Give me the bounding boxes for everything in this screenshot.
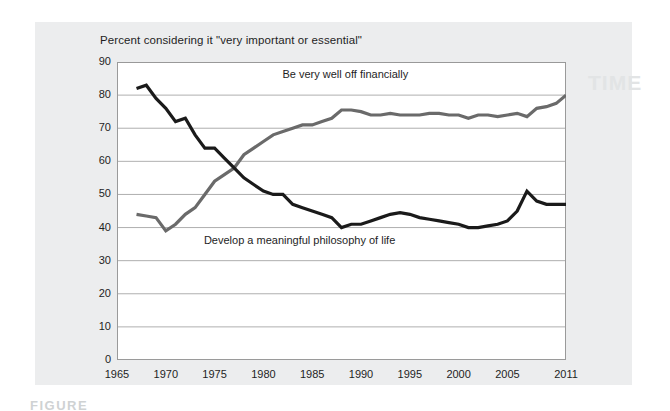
x-tick-label: 1980 bbox=[241, 368, 285, 380]
figure-caption: FIGURE bbox=[30, 398, 88, 411]
y-tick-label: 60 bbox=[85, 154, 111, 166]
y-tick-label: 70 bbox=[85, 121, 111, 133]
x-tick-label: 1990 bbox=[339, 368, 383, 380]
series-label-financial: Be very well off financially bbox=[282, 68, 408, 80]
y-tick-label: 50 bbox=[85, 187, 111, 199]
line-chart-plot bbox=[117, 62, 566, 360]
chart-title: Percent considering it "very important o… bbox=[100, 34, 362, 46]
y-tick-label: 40 bbox=[85, 221, 111, 233]
y-tick-label: 80 bbox=[85, 88, 111, 100]
x-tick-label: 1965 bbox=[95, 368, 139, 380]
series-line-philosophy bbox=[137, 85, 566, 227]
series-label-philosophy: Develop a meaningful philosophy of life bbox=[204, 234, 395, 246]
x-tick-label: 1970 bbox=[144, 368, 188, 380]
x-tick-label: 2000 bbox=[437, 368, 481, 380]
y-tick-label: 90 bbox=[85, 55, 111, 67]
x-tick-label: 1995 bbox=[388, 368, 432, 380]
y-tick-label: 20 bbox=[85, 287, 111, 299]
y-tick-label: 10 bbox=[85, 320, 111, 332]
y-tick-label: 30 bbox=[85, 254, 111, 266]
series-line-financial bbox=[137, 95, 566, 231]
x-tick-label: 2005 bbox=[485, 368, 529, 380]
x-tick-label: 1975 bbox=[193, 368, 237, 380]
x-tick-label: 1985 bbox=[290, 368, 334, 380]
bleed-through-ghost-text: TIME bbox=[588, 70, 658, 190]
x-tick-label: 2011 bbox=[544, 368, 588, 380]
figure-page: TIME Percent considering it "very import… bbox=[0, 0, 670, 411]
y-tick-label: 0 bbox=[85, 353, 111, 365]
